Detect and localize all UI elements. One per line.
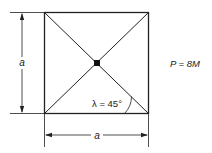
center-load-point — [94, 60, 100, 66]
left-dimension-label: a — [19, 57, 25, 68]
angle-arc — [125, 97, 132, 114]
arrow-right-icon — [141, 133, 148, 137]
angle-label: λ = 45° — [92, 98, 122, 109]
arrow-down-icon — [20, 106, 24, 113]
load-label: P = 8M — [170, 58, 200, 69]
arrow-up-icon — [20, 13, 24, 20]
diagram-canvas: a a λ = 45° P = 8M — [0, 0, 212, 153]
bottom-dimension-label: a — [94, 130, 100, 141]
arrow-left-icon — [45, 133, 52, 137]
